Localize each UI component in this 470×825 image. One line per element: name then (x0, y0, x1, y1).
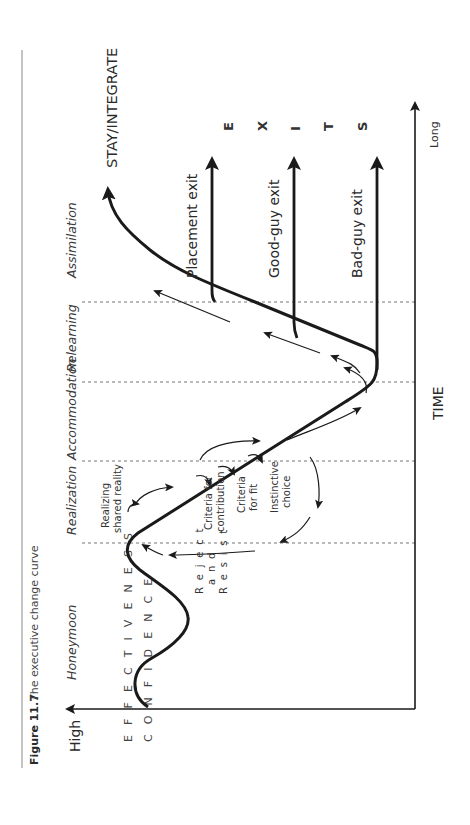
criteria-contribution-label-1: Criteria for (203, 475, 214, 530)
realizing-label-1: Realizing (100, 483, 111, 528)
phase-honeymoon: Honeymoon (64, 604, 79, 680)
good-guy-exit-label: Good-guy exit (266, 179, 282, 278)
x-axis-long-label: Long (428, 121, 441, 148)
criteria-contribution-label-2: contribution (215, 471, 226, 532)
resist-letters: R e s i s t (218, 528, 229, 594)
phase-assimilation: Assimilation (64, 202, 79, 279)
svg-text:S: S (355, 122, 370, 131)
criteria-fit-label-1: Criteria (236, 476, 247, 513)
bad-guy-exit-label: Bad-guy exit (349, 189, 365, 278)
stay-integrate-label: STAY/INTEGRATE (104, 48, 120, 168)
exits-letters: E X I T S (221, 121, 370, 131)
figure-caption: Figure 11.7 The executive change curve (28, 545, 41, 765)
phase-realization: Realization (64, 466, 79, 535)
svg-text:X: X (255, 121, 270, 131)
phase-relearning: Relearning (64, 304, 79, 372)
placement-exit-label: Placement exit (184, 173, 200, 278)
executive-change-curve-figure: Figure 11.7 The executive change curve H… (0, 0, 470, 825)
placement-exit-line (212, 160, 215, 302)
good-guy-exit-line (294, 160, 297, 338)
instinctive-label-2: choice (281, 476, 292, 508)
and-letters: a n d (206, 551, 217, 585)
phase-labels: Honeymoon Realization Accommodation Rele… (64, 202, 79, 680)
phase-accommodation: Accommodation (64, 358, 79, 461)
criteria-fit-label-2: for fit (248, 484, 259, 511)
figure-number: Figure 11.7 (28, 694, 41, 765)
svg-text:E: E (221, 122, 236, 131)
reject-letters: R e j e c t (194, 527, 205, 594)
instinctive-label-1: Instinctive (269, 461, 280, 513)
x-axis-time-label: TIME (430, 386, 446, 421)
figure-title: The executive change curve (28, 545, 41, 702)
svg-text:I: I (288, 126, 303, 131)
realizing-label-2: shared reality (112, 464, 123, 533)
svg-text:T: T (321, 122, 336, 131)
y-axis-high-label: High (67, 720, 83, 752)
